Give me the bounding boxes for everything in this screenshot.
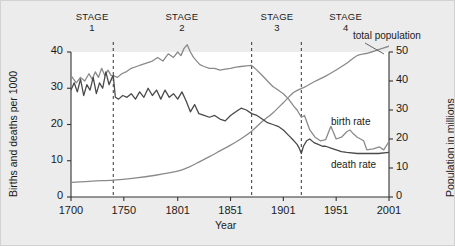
- y-axis-title: Births and deaths per 1000: [7, 71, 19, 197]
- y2-axis-title: Population in millions: [444, 98, 455, 197]
- total-population-label: total population: [353, 30, 421, 41]
- stage-title: STAGE: [152, 11, 212, 22]
- x-tick-label: 1901: [261, 204, 305, 216]
- stage-heading-1: STAGE1: [62, 11, 122, 33]
- x-tick-label: 1801: [156, 204, 200, 216]
- x-tick-label: 1851: [209, 204, 253, 216]
- stage-heading-2: STAGE2: [152, 11, 212, 33]
- y2-tick-label: 50: [396, 44, 408, 56]
- x-axis-title: Year: [215, 219, 236, 231]
- y2-tick-label: 0: [396, 189, 402, 201]
- x-tick-label: 1951: [314, 204, 358, 216]
- stage-title: STAGE: [316, 11, 376, 22]
- stage-title: STAGE: [62, 11, 122, 22]
- stage-number: 2: [152, 22, 212, 33]
- y2-tick-label: 30: [396, 102, 408, 114]
- birth-rate-label: birth rate: [331, 116, 370, 127]
- stage-number: 1: [62, 22, 122, 33]
- x-tick-label: 1700: [49, 204, 93, 216]
- x-tick-label: 2001: [367, 204, 411, 216]
- stage-title: STAGE: [247, 11, 307, 22]
- y2-tick-label: 10: [396, 160, 408, 172]
- x-tick-label: 1750: [102, 204, 146, 216]
- death-rate-label: death rate: [331, 159, 376, 170]
- stage-heading-3: STAGE3: [247, 11, 307, 33]
- y2-tick-label: 20: [396, 131, 408, 143]
- y2-tick-label: 40: [396, 73, 408, 85]
- demographic-transition-figure: 0102030400102030405017001750180118511901…: [0, 0, 455, 246]
- y-tick-label: 40: [1, 44, 63, 56]
- stage-number: 3: [247, 22, 307, 33]
